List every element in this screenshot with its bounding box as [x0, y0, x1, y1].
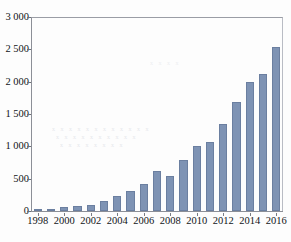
x-axis-tick-label: 2006	[131, 215, 157, 226]
bar	[34, 209, 42, 211]
bar-series	[31, 17, 283, 211]
y-axis-tick-label: 2 000	[3, 77, 29, 87]
y-axis-tick-label: 2 500	[3, 44, 29, 54]
x-axis-tick-label: 2004	[104, 215, 130, 226]
bar	[73, 206, 81, 211]
bar-chart-figure: x x x x x x x x x x x x x x x x x x x x …	[0, 0, 291, 242]
bar	[60, 207, 68, 211]
y-axis-tick-label: 3 000	[3, 12, 29, 22]
bar	[113, 196, 121, 211]
bar	[87, 205, 95, 211]
bar	[140, 184, 148, 211]
bar	[126, 191, 134, 211]
y-axis-tick-label: 1 000	[3, 141, 29, 151]
bar	[179, 160, 187, 211]
bar	[219, 124, 227, 211]
bar	[232, 102, 240, 211]
x-axis-tick-label: 2010	[184, 215, 210, 226]
bar	[272, 47, 280, 211]
x-axis-tick-label: 1998	[25, 215, 51, 226]
y-axis-tick-label: 500	[3, 174, 29, 184]
bar	[166, 176, 174, 211]
bar	[246, 82, 254, 211]
y-axis-tick-label: 1 500	[3, 109, 29, 119]
x-axis-tick-label: 2008	[157, 215, 183, 226]
bar	[100, 201, 108, 211]
bar	[259, 74, 267, 211]
bar	[193, 146, 201, 211]
bar	[47, 209, 55, 211]
x-axis: 1998200020022004200620082010201220142016	[31, 213, 283, 231]
x-axis-tick-label: 2002	[78, 215, 104, 226]
y-axis: 05001 0001 5002 0002 5003 000	[0, 0, 29, 242]
x-axis-tick-label: 2014	[237, 215, 263, 226]
x-axis-baseline	[31, 211, 283, 212]
x-axis-tick-label: 2016	[263, 215, 289, 226]
figure-caption	[0, 233, 291, 242]
bar	[206, 142, 214, 211]
x-axis-tick-label: 2012	[210, 215, 236, 226]
bar	[153, 171, 161, 211]
x-axis-tick-label: 2000	[51, 215, 77, 226]
